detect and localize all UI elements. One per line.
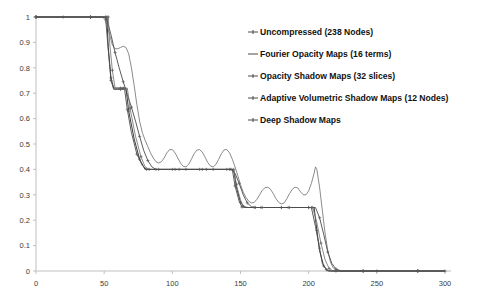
x-axis-tick-label: 50 bbox=[100, 279, 108, 288]
x-axis-tick-label: 150 bbox=[234, 279, 247, 288]
y-axis-tick-label: 0 bbox=[26, 267, 30, 276]
y-axis-tick-label: 0.9 bbox=[20, 38, 30, 47]
legend-label-1: Fourier Opacity Maps (16 terms) bbox=[260, 49, 391, 59]
legend-label-4: Deep Shadow Maps bbox=[260, 115, 341, 125]
x-axis-tick-label: 300 bbox=[439, 279, 452, 288]
y-axis-tick-label: 0.3 bbox=[20, 191, 30, 200]
chart-container: 00.10.20.30.40.50.60.70.80.9105010015020… bbox=[0, 0, 477, 299]
x-axis-tick-label: 0 bbox=[34, 279, 38, 288]
x-axis-tick-label: 200 bbox=[302, 279, 315, 288]
legend-label-3: Adaptive Volumetric Shadow Maps (12 Node… bbox=[260, 93, 449, 103]
y-axis-tick-label: 0.2 bbox=[20, 216, 30, 225]
y-axis-tick-label: 0.8 bbox=[20, 64, 30, 73]
x-axis-tick-label: 100 bbox=[166, 279, 179, 288]
legend-label-2: Opacity Shadow Maps (32 slices) bbox=[260, 71, 395, 81]
y-axis-tick-label: 0.4 bbox=[20, 165, 30, 174]
y-axis-tick-label: 0.6 bbox=[20, 114, 30, 123]
line-chart: 00.10.20.30.40.50.60.70.80.9105010015020… bbox=[0, 0, 477, 299]
chart-legend: Uncompressed (238 Nodes)Fourier Opacity … bbox=[248, 27, 449, 125]
legend-label-0: Uncompressed (238 Nodes) bbox=[260, 27, 373, 37]
y-axis-tick-label: 0.7 bbox=[20, 89, 30, 98]
x-axis-tick-label: 250 bbox=[371, 279, 384, 288]
y-axis-tick-label: 0.1 bbox=[20, 241, 30, 250]
y-axis-tick-label: 0.5 bbox=[20, 140, 30, 149]
y-axis-tick-label: 1 bbox=[26, 13, 30, 22]
